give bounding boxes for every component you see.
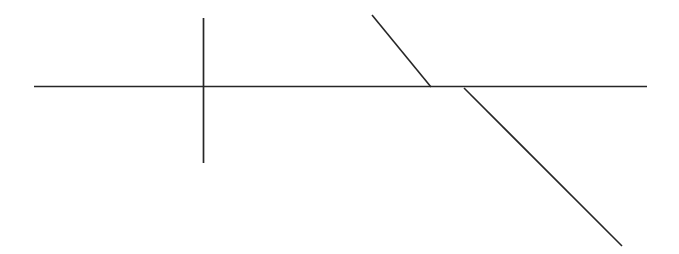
diagram-canvas: [0, 0, 679, 254]
diagram-background: [0, 0, 679, 254]
diagram-svg: [0, 0, 679, 254]
